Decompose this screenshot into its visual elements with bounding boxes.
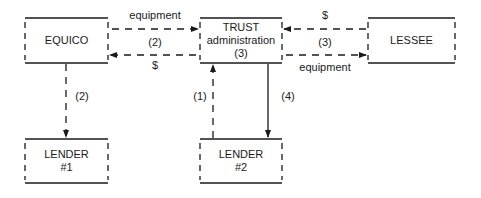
node-lender2-label-1: LENDER [219, 148, 264, 161]
node-lender2-label-2: #2 [235, 161, 247, 174]
edge-label-dollar-left: $ [145, 59, 165, 71]
edge-label-equipment-bottom: equipment [290, 61, 360, 73]
node-trust-label-1: TRUST [223, 21, 260, 34]
edge-label-equipment-top: equipment [120, 9, 190, 21]
edge-label-step2-mid: (2) [140, 36, 170, 48]
edge-label-step4-down: (4) [278, 90, 298, 102]
node-lender1-label-2: #1 [60, 161, 72, 174]
node-trust-label-2: administration [207, 34, 275, 47]
node-lender1-label-1: LENDER [44, 148, 89, 161]
node-lessee: LESSEE [368, 18, 455, 63]
node-trust-label-3: (3) [234, 47, 247, 60]
edge-label-step2-down: (2) [70, 90, 94, 102]
node-lender1: LENDER #1 [25, 139, 108, 183]
edge-label-step3-mid: (3) [310, 36, 340, 48]
node-equico: EQUICO [25, 18, 108, 63]
edge-label-dollar-right: $ [315, 9, 335, 21]
node-lessee-label: LESSEE [390, 34, 433, 47]
node-trust: TRUST administration (3) [200, 18, 282, 63]
node-lender2: LENDER #2 [200, 139, 282, 183]
edge-label-step1-up: (1) [190, 90, 210, 102]
node-equico-label: EQUICO [45, 34, 88, 47]
